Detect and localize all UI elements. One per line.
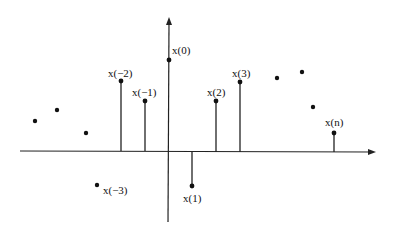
free-dot [55,108,59,112]
sample-dot-x-3 [238,80,243,85]
free-dot-x-minus-3 [95,183,99,187]
free-dot [311,105,315,109]
label-x-0: x(0) [172,45,190,56]
sample-dot-x-minus-1 [143,99,148,104]
label-x-n: x(n) [325,117,343,128]
label-x-2: x(2) [207,87,225,98]
sample-dot-x-n [332,131,337,136]
label-x-1: x(1) [183,193,201,204]
label-x-minus-1: x(−1) [132,87,157,98]
free-dot [84,131,88,135]
label-x-minus-2: x(−2) [108,68,133,79]
free-dot [33,119,37,123]
y-axis-arrow-icon [166,17,172,25]
sample-dot-x-minus-2 [119,79,124,84]
y-axis [168,22,169,222]
label-x-3: x(3) [232,68,250,79]
x-axis [20,151,372,152]
sample-dot-x-0 [167,58,172,63]
x-axis-arrow-icon [368,149,376,155]
sample-dot-x-2 [214,99,219,104]
free-dot [300,70,304,74]
free-dot [275,76,279,80]
label-x-minus-3: x(−3) [103,185,128,196]
sample-dot-x-1 [190,184,195,189]
